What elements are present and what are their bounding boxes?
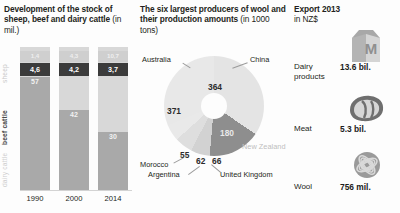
pie-label-new-zealand: New Zealand	[242, 142, 286, 151]
bar-chart-title: Development of the stock of sheep, beef …	[4, 4, 130, 35]
export-row-meat[interactable]: Meat 5.3 bil.	[294, 94, 398, 152]
donut-hole	[201, 93, 227, 119]
pie-value-australia: 371	[167, 106, 181, 116]
wool-yarn-icon	[342, 148, 388, 182]
bar-group-2014[interactable]: 30 3,7 10,7	[98, 47, 128, 190]
export-panel: Export 2013 in NZ$ M Dairy products 13.6…	[294, 4, 398, 209]
bar-value-beef: 4,6	[20, 65, 50, 74]
bar-chart-title-bold: Development of the stock of sheep, beef …	[4, 4, 112, 24]
bar-segment-dairy: 1,4	[20, 51, 50, 62]
bar-chart-baseline	[20, 190, 132, 191]
export-title-bold: Export 2013	[294, 4, 340, 14]
export-row-wool[interactable]: Wool 756 mil.	[294, 152, 398, 210]
x-tick-1990: 1990	[20, 194, 50, 203]
pie-value-united-kingdom: 66	[212, 156, 221, 166]
bar-value-sheep: 57	[20, 78, 50, 85]
milk-carton-icon: M	[342, 28, 388, 62]
bar-segment-beef: 4,2	[59, 63, 89, 76]
export-title: Export 2013 in NZ$	[294, 4, 396, 25]
bar-value-sheep: 30	[98, 133, 128, 140]
bar-segment-sheep: 57	[20, 77, 50, 190]
bar-value-dairy: 4,3	[59, 52, 89, 59]
bar-chart-plot-area: 57 4,6 1,4 42 4,2 4,3	[20, 47, 130, 190]
pie-chart-panel: The six largest producers of wool and th…	[140, 4, 288, 209]
bar-value-dairy: 1,4	[20, 52, 50, 59]
export-label-dairy: Dairy products	[294, 62, 336, 81]
bar-value-beef: 4,2	[59, 65, 89, 74]
svg-text:M: M	[365, 40, 378, 57]
export-title-currency: in NZ$	[294, 14, 318, 24]
bar-segment-sheep: 42	[59, 110, 89, 190]
x-tick-2000: 2000	[59, 194, 89, 203]
bar-group-1990[interactable]: 57 4,6 1,4	[20, 47, 50, 190]
export-value-wool: 756 mil.	[340, 182, 371, 192]
pie-label-china: China	[250, 55, 269, 64]
x-tick-2014: 2014	[98, 194, 128, 203]
bar-segment-dairy: 10,7	[98, 51, 128, 62]
bar-segment-dairy: 4,3	[59, 51, 89, 62]
bar-chart-x-axis: 1990 2000 2014	[20, 192, 132, 206]
bar-group-2000[interactable]: 42 4,2 4,3	[59, 47, 89, 190]
steak-icon	[342, 90, 388, 124]
axis-label-sheep: sheep	[1, 64, 8, 83]
pie-value-china: 364	[208, 82, 222, 92]
pie-label-australia: Australia	[142, 55, 171, 64]
donut-chart: 364 371 180 55 62 66 Australia China New…	[146, 56, 282, 174]
axis-label-beef-cattle: beef cattle	[1, 110, 8, 145]
bar-segment-sheep: 30	[98, 132, 128, 190]
pie-value-argentina: 62	[196, 156, 205, 166]
bar-chart-panel: Development of the stock of sheep, beef …	[4, 4, 132, 209]
infographic-canvas: Development of the stock of sheep, beef …	[0, 0, 400, 213]
pie-label-united-kingdom: United Kingdom	[220, 170, 273, 179]
bar-value-dairy: 10,7	[98, 52, 128, 59]
pie-value-new-zealand: 180	[220, 128, 234, 138]
pie-chart-title: The six largest producers of wool and th…	[140, 4, 286, 35]
pie-label-morocco: Morocco	[140, 160, 168, 169]
bar-segment-beef: 4,6	[20, 63, 50, 76]
bar-segment-beef: 3,7	[98, 63, 128, 76]
export-label-wool: Wool	[294, 182, 336, 192]
bar-chart-axis-labels: dairy cattle beef cattle sheep	[8, 47, 20, 193]
bar-value-beef: 3,7	[98, 65, 128, 74]
export-label-meat: Meat	[294, 124, 336, 134]
pie-label-argentina: Argentina	[148, 170, 180, 179]
export-value-meat: 5.3 bil.	[340, 124, 366, 134]
bar-value-sheep: 42	[59, 111, 89, 118]
axis-label-dairy-cattle: dairy cattle	[1, 153, 8, 187]
export-row-dairy[interactable]: M Dairy products 13.6 bil.	[294, 32, 398, 90]
export-value-dairy: 13.6 bil.	[340, 62, 371, 72]
